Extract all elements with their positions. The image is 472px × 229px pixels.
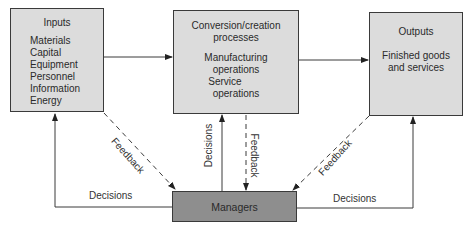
outputs-box: Outputs Finished goods and services (369, 12, 463, 116)
outputs-body-line1: Finished goods (370, 50, 462, 62)
decisions-label-right: Decisions (333, 193, 376, 204)
inputs-box: Inputs Materials Capital Equipment Perso… (10, 8, 104, 112)
conversion-title-line1: Conversion/creation (174, 20, 298, 32)
managers-title: Managers (211, 201, 258, 213)
inputs-item: Materials (30, 35, 103, 47)
conversion-item: operations (174, 64, 298, 76)
conversion-title: Conversion/creation processes (174, 20, 298, 44)
decisions-label-left: Decisions (89, 190, 132, 201)
conversion-operations: Manufacturing operations Service operati… (174, 52, 298, 100)
inputs-item: Information (30, 83, 103, 95)
inputs-title: Inputs (11, 17, 103, 29)
conversion-title-line2: processes (174, 32, 298, 44)
outputs-body-line2: and services (370, 62, 462, 74)
inputs-item: Equipment (30, 59, 103, 71)
decisions-label-center: Decisions (203, 124, 214, 167)
inputs-item: Personnel (30, 71, 103, 83)
inputs-item: Capital (30, 47, 103, 59)
outputs-title: Outputs (370, 26, 462, 38)
conversion-item: Service (152, 76, 298, 88)
managers-box: Managers (172, 191, 297, 222)
conversion-item: operations (174, 88, 298, 100)
conversion-box: Conversion/creation processes Manufactur… (173, 10, 299, 114)
inputs-list: Materials Capital Equipment Personnel In… (30, 35, 103, 107)
arrow-feedback-from-inputs (104, 113, 175, 189)
outputs-body: Finished goods and services (370, 50, 462, 74)
feedback-label-center: Feedback (249, 134, 260, 178)
conversion-item: Manufacturing (174, 52, 298, 64)
inputs-item: Energy (30, 95, 103, 107)
